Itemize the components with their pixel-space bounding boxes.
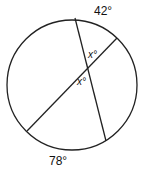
angle-label-upper: x° (88, 49, 97, 60)
arc-label-top: 42° (94, 4, 112, 18)
angle-label-lower: x° (77, 76, 86, 87)
chord-2 (27, 38, 117, 131)
diagram-canvas (0, 0, 141, 170)
arc-label-bottom: 78° (49, 154, 67, 168)
